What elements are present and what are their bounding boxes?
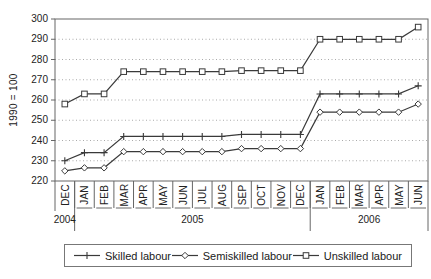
legend-label: Semiskilled labour [203, 250, 292, 262]
y-tick-label: 230 [22, 156, 48, 166]
month-label: NOV [275, 184, 286, 206]
year-label: 2006 [358, 214, 380, 225]
legend-marker-plus-icon [74, 251, 100, 260]
month-label: MAY [157, 184, 168, 206]
month-label: DEC [295, 184, 306, 206]
y-tick-label: 240 [22, 136, 48, 146]
legend-label: Unskilled labour [324, 250, 402, 262]
plot-area [0, 0, 431, 279]
month-label: MAY [393, 184, 404, 206]
month-label: AUG [216, 184, 227, 206]
month-label: JUL [197, 186, 208, 204]
year-label: 2004 [54, 214, 76, 225]
month-label: MAR [354, 184, 365, 207]
gridlines [55, 39, 428, 161]
y-tick-label: 250 [22, 115, 48, 125]
y-tick-label: 260 [22, 95, 48, 105]
month-label: DEC [59, 184, 70, 206]
month-label: JAN [315, 185, 326, 205]
legend-item: Semiskilled labour [172, 250, 292, 262]
month-label: APR [373, 184, 384, 205]
y-tick-label: 280 [22, 55, 48, 65]
legend-label: Skilled labour [105, 250, 171, 262]
y-tick-label: 270 [22, 75, 48, 85]
y-tick-label: 220 [22, 176, 48, 186]
legend-marker-diamond-icon [172, 251, 198, 260]
month-label: MAR [118, 184, 129, 207]
y-tick-label: 300 [22, 14, 48, 24]
month-label: JAN [79, 185, 90, 205]
month-label: OCT [256, 184, 267, 206]
month-label: JUN [413, 185, 424, 205]
month-label: FEB [334, 185, 345, 205]
labour-index-line-chart: 1990 = 100 220230240250260270280290300 D… [0, 0, 431, 279]
year-label: 2005 [181, 214, 203, 225]
legend-marker-square-icon [293, 251, 319, 260]
month-label: JUN [177, 185, 188, 205]
month-label: APR [138, 184, 149, 205]
y-tick-label: 290 [22, 34, 48, 44]
legend: Skilled labourSemiskilled labourUnskille… [64, 244, 412, 267]
month-label: SEP [236, 185, 247, 206]
legend-item: Unskilled labour [293, 250, 402, 262]
legend-item: Skilled labour [74, 250, 171, 262]
month-label: FEB [99, 185, 110, 205]
